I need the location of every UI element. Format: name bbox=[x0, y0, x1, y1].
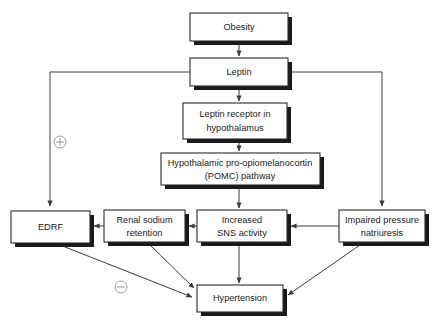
node-hypertension[interactable]: Hypertension bbox=[197, 285, 287, 316]
node-impaired-pressure-natriuresis-label-line1: Impaired pressure bbox=[345, 215, 419, 225]
node-leptin-receptor-label-line2: hypothalamus bbox=[206, 123, 264, 133]
sign-minus bbox=[115, 281, 127, 293]
edge-renal-to-hypertension bbox=[150, 245, 194, 288]
node-leptin-label: Leptin bbox=[226, 67, 251, 77]
node-impaired-pressure-natriuresis[interactable]: Impaired pressure natriuresis bbox=[339, 210, 429, 246]
node-renal-sodium-retention-label-line1: Renal sodium bbox=[116, 215, 173, 225]
sign-plus bbox=[54, 136, 66, 148]
node-pomc-pathway-label-line1: Hypothalamic pro-opiomelanocortin bbox=[168, 158, 313, 168]
node-renal-sodium-retention-label-line2: retention bbox=[127, 228, 163, 238]
node-increased-sns-activity-label-line1: Increased bbox=[222, 215, 262, 225]
node-pomc-pathway[interactable]: Hypothalamic pro-opiomelanocortin (POMC)… bbox=[161, 153, 324, 189]
node-edrf-label: EDRF bbox=[38, 222, 63, 232]
node-edrf[interactable]: EDRF bbox=[11, 211, 94, 247]
node-leptin-receptor-label-line1: Leptin receptor in bbox=[200, 109, 271, 119]
node-impaired-pressure-natriuresis-label-line2: natriuresis bbox=[361, 228, 404, 238]
node-increased-sns-activity[interactable]: Increased SNS activity bbox=[197, 210, 291, 246]
node-renal-sodium-retention[interactable]: Renal sodium retention bbox=[104, 210, 189, 246]
flowchart-canvas: Obesity Leptin Leptin receptor in hypoth… bbox=[0, 0, 434, 330]
node-leptin[interactable]: Leptin bbox=[190, 58, 292, 90]
edge-natriuresis-to-hypertension bbox=[288, 245, 360, 295]
node-hypertension-label: Hypertension bbox=[213, 293, 267, 303]
node-obesity[interactable]: Obesity bbox=[190, 13, 292, 45]
node-increased-sns-activity-label-line2: SNS activity bbox=[217, 228, 267, 238]
node-pomc-pathway-label-line2: (POMC) pathway bbox=[205, 171, 276, 181]
node-obesity-label: Obesity bbox=[223, 22, 255, 32]
edge-edrf-to-hypertension bbox=[60, 245, 192, 297]
obesity-hypertension-flowchart: Obesity Leptin Leptin receptor in hypoth… bbox=[0, 0, 434, 330]
node-leptin-receptor[interactable]: Leptin receptor in hypothalamus bbox=[183, 103, 291, 143]
